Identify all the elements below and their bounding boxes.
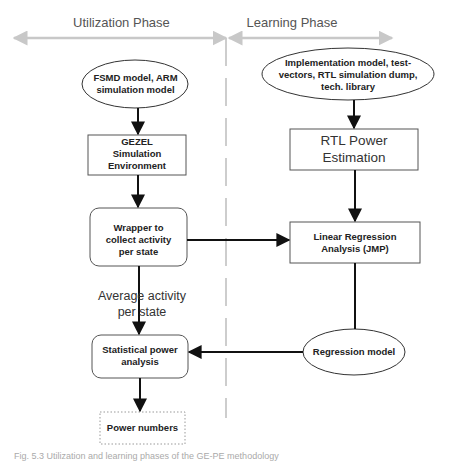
wrapper-node: Wrapper to collect activity per state: [90, 222, 187, 258]
fsmd-node: FSMD model, ARM simulation model: [82, 72, 189, 96]
linear-regression-line2: Analysis (JMP): [290, 243, 420, 255]
statistical-node-line2: analysis: [92, 356, 188, 368]
average-activity-edge-label: Average activity per state: [88, 289, 196, 320]
fsmd-node-line2: simulation model: [82, 84, 189, 96]
linear-regression-node: Linear Regression Analysis (JMP): [290, 231, 420, 255]
average-activity-line2: per state: [88, 305, 196, 321]
fsmd-node-line1: FSMD model, ARM: [82, 72, 189, 84]
wrapper-node-line2: collect activity: [90, 234, 187, 246]
linear-regression-line1: Linear Regression: [290, 231, 420, 243]
gezel-node: GEZEL Simulation Environment: [88, 136, 186, 172]
wrapper-node-line1: Wrapper to: [90, 222, 187, 234]
learning-phase-label: Learning Phase: [246, 15, 338, 31]
statistical-node-line1: Statistical power: [92, 344, 188, 356]
rtl-power-line2: Estimation: [290, 150, 418, 167]
power-numbers-node: Power numbers: [100, 422, 185, 434]
impl-inputs-line1: Implementation model, test-: [262, 57, 434, 69]
utilization-phase-label: Utilization Phase: [73, 15, 168, 31]
impl-inputs-line3: tech. library: [262, 81, 434, 93]
wrapper-node-line3: per state: [90, 246, 187, 258]
regression-model-node: Regression model: [303, 346, 405, 358]
gezel-node-line3: Environment: [88, 160, 186, 172]
average-activity-line1: Average activity: [88, 289, 196, 305]
gezel-node-line2: Simulation: [88, 148, 186, 160]
rtl-power-node: RTL Power Estimation: [290, 133, 418, 167]
impl-inputs-line2: vectors, RTL simulation dump,: [262, 69, 434, 81]
statistical-node: Statistical power analysis: [92, 344, 188, 368]
rtl-power-line1: RTL Power: [290, 133, 418, 150]
impl-inputs-node: Implementation model, test- vectors, RTL…: [262, 57, 434, 93]
figure-caption: Fig. 5.3 Utilization and learning phases…: [14, 451, 279, 461]
gezel-node-line1: GEZEL: [88, 136, 186, 148]
